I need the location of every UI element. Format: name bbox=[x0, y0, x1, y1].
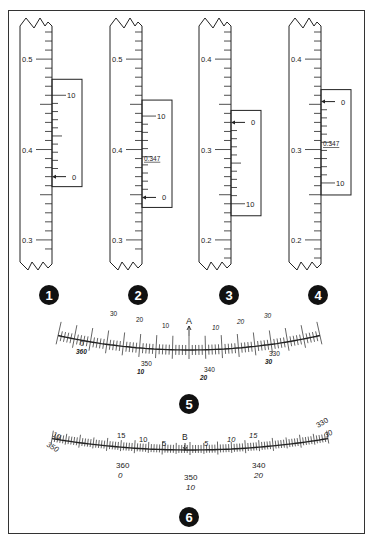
arc-tick bbox=[63, 435, 64, 443]
arc-vernier-5: A3020101020300360350103402033030 bbox=[56, 310, 322, 381]
arc-tick bbox=[228, 344, 229, 354]
lower-scale-label-bottom: 10 bbox=[137, 368, 145, 375]
reading-value-label: 0.347 bbox=[144, 155, 161, 162]
arc-tick bbox=[259, 440, 260, 451]
arc-tick bbox=[129, 342, 130, 352]
main-scale-label: 0.4 bbox=[22, 146, 32, 155]
end-label-bottom: 30 bbox=[323, 427, 335, 439]
upper-scale-label: 10 bbox=[162, 322, 170, 329]
main-scale-label: 0.2 bbox=[201, 236, 211, 245]
linear-vernier-2: 0.50.40.31000.347 bbox=[110, 18, 172, 270]
figure-number-badge-2: 2 bbox=[128, 285, 148, 305]
arc-tick bbox=[285, 328, 289, 351]
arc-tick bbox=[109, 441, 110, 449]
vernier-ten-label: 10 bbox=[336, 179, 344, 188]
lower-scale-label-top: 340 bbox=[204, 366, 215, 373]
vernier-diagram: 0.50.40.31000.50.40.31000.3470.40.30.201… bbox=[0, 0, 381, 543]
arc-tick bbox=[139, 334, 141, 357]
vernier-zero-label: 0 bbox=[162, 193, 166, 202]
arc-tick bbox=[93, 437, 94, 448]
arc-tick bbox=[172, 336, 173, 359]
arc-tick bbox=[319, 435, 320, 443]
lower-scale-label-bottom: 10 bbox=[186, 483, 195, 492]
index-label-B: B bbox=[182, 432, 188, 442]
upper-scale-label: 30 bbox=[110, 310, 118, 317]
arrowhead-icon bbox=[321, 100, 325, 104]
lower-scale-label-top: 360 bbox=[116, 461, 130, 470]
upper-scale-label: 10 bbox=[139, 435, 147, 444]
lower-scale-label-top: 340 bbox=[252, 461, 266, 470]
main-scale-label: 0.5 bbox=[112, 55, 122, 64]
arc-tick bbox=[112, 441, 113, 449]
figure-number-badge-5: 5 bbox=[179, 394, 199, 414]
arc-tick bbox=[251, 443, 252, 451]
arc-tick bbox=[221, 335, 222, 358]
end-label-bottom: 350 bbox=[45, 440, 61, 454]
arc-tick bbox=[253, 443, 254, 451]
arc-tick bbox=[120, 440, 121, 451]
arc-tick bbox=[270, 441, 271, 449]
badge-number: 5 bbox=[185, 397, 192, 412]
index-arrow-icon bbox=[183, 443, 187, 450]
arc-tick bbox=[245, 342, 246, 352]
arc-tick bbox=[71, 437, 72, 445]
arc-tick bbox=[129, 443, 130, 451]
arc-tick bbox=[300, 435, 302, 448]
lower-scale-label-top: 350 bbox=[141, 360, 152, 367]
main-scale-label: 0.2 bbox=[291, 236, 301, 245]
arc-tick bbox=[98, 440, 99, 448]
arc-tick bbox=[137, 443, 138, 451]
arc-tick bbox=[136, 343, 137, 353]
badge-number: 2 bbox=[134, 288, 141, 303]
arc-tick bbox=[104, 441, 105, 449]
badge-number: 1 bbox=[45, 288, 52, 303]
arc-tick bbox=[253, 332, 256, 355]
number-badges: 123456 bbox=[39, 285, 328, 527]
main-scale-label: 0.5 bbox=[22, 55, 32, 64]
main-scale-label: 0.4 bbox=[201, 55, 211, 64]
arc-tick bbox=[225, 344, 226, 354]
upper-scale-label: 15 bbox=[249, 431, 258, 440]
arc-tick bbox=[248, 443, 249, 451]
arc-tick bbox=[65, 434, 67, 445]
lower-scale-label-top: 0 bbox=[80, 340, 84, 347]
vernier-zero-label: 0 bbox=[341, 98, 345, 107]
end-label-top: 330 bbox=[315, 416, 330, 430]
arc-tick bbox=[79, 435, 81, 448]
arc-tick bbox=[256, 442, 257, 450]
arc-tick bbox=[313, 434, 315, 445]
arc-tick bbox=[152, 344, 153, 354]
figure-number-badge-3: 3 bbox=[219, 285, 239, 305]
arc-tick bbox=[96, 440, 97, 448]
arc-vernier-6: B1510551015103503303036003501034020 bbox=[45, 416, 335, 492]
upper-scale-label: 20 bbox=[136, 316, 144, 323]
arc-tick bbox=[89, 328, 93, 351]
arc-tick bbox=[85, 438, 86, 446]
arc-tick bbox=[123, 442, 124, 450]
arc-tick bbox=[134, 440, 135, 453]
arc-tick bbox=[68, 436, 69, 444]
arc-tick bbox=[289, 439, 290, 447]
arc-tick bbox=[286, 437, 287, 448]
arc-tick bbox=[82, 438, 83, 446]
vernier-ten-label: 10 bbox=[246, 200, 254, 209]
arc-tick bbox=[322, 435, 323, 443]
arc-tick bbox=[275, 441, 276, 449]
lower-scale-label-top: 330 bbox=[269, 350, 280, 357]
lower-scale-label-bottom: 20 bbox=[253, 471, 263, 480]
arc-tick bbox=[305, 437, 306, 445]
lower-scale-label-top: 350 bbox=[184, 473, 198, 482]
arc-tick bbox=[115, 442, 116, 450]
upper-scale-label: 20 bbox=[236, 318, 245, 325]
lower-scale-label-bottom: 30 bbox=[265, 358, 273, 365]
arc-tick bbox=[297, 438, 298, 446]
linear-vernier-1: 0.50.40.3100 bbox=[20, 18, 82, 270]
linear-vernier-4: 0.40.30.20100.347 bbox=[289, 18, 351, 270]
arc-tick bbox=[90, 439, 91, 447]
arc-tick bbox=[76, 437, 77, 445]
main-scale-label: 0.3 bbox=[112, 236, 122, 245]
main-scale-label: 0.3 bbox=[22, 236, 32, 245]
main-scale-label: 0.4 bbox=[291, 55, 301, 64]
arc-tick bbox=[303, 437, 304, 445]
arc-tick bbox=[148, 442, 149, 453]
